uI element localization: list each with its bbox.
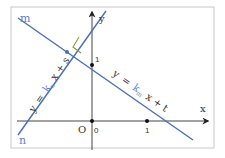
intersection-point bbox=[65, 50, 69, 54]
y-tick-point bbox=[90, 63, 94, 67]
x-tick-one-label: 1 bbox=[145, 126, 150, 135]
x-tick-point bbox=[145, 119, 149, 123]
line-m-label: m bbox=[20, 12, 31, 25]
coordinate-diagram: m n y x O 0 1 1 y = kn x + s y = km x + … bbox=[0, 0, 225, 158]
origin-label: O bbox=[78, 124, 86, 135]
axis-x-label: x bbox=[200, 103, 206, 114]
origin-zero-label: 0 bbox=[94, 126, 99, 135]
y-tick-one-label: 1 bbox=[95, 55, 100, 64]
line-n-label: n bbox=[19, 134, 26, 147]
axis-y-label: y bbox=[98, 13, 105, 24]
origin-point bbox=[90, 119, 94, 123]
